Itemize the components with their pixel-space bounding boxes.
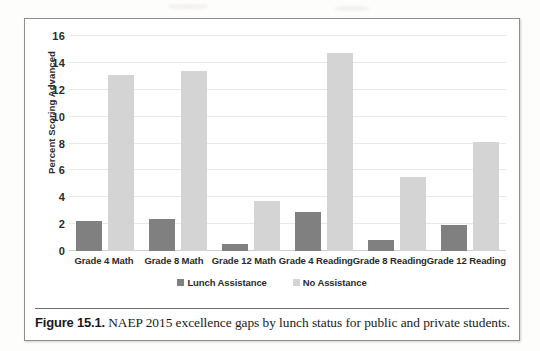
scan-artifact	[335, 6, 369, 11]
y-axis-tick-label: 2	[59, 219, 65, 230]
x-axis-tick-label: Grade 4 Reading	[279, 255, 353, 266]
bar-group	[360, 36, 433, 251]
bar-group	[287, 36, 360, 251]
figure-caption-label: Figure 15.1.	[35, 315, 105, 330]
x-axis-tick-label: Grade 4 Math	[69, 255, 139, 266]
bar	[368, 240, 394, 251]
bar-group	[433, 36, 506, 251]
bar	[295, 212, 321, 251]
bar-group	[142, 36, 215, 251]
y-axis-tick-label: 14	[52, 57, 65, 68]
y-axis-ticks: 0246810121416	[39, 36, 65, 251]
bar	[254, 201, 280, 251]
y-axis-tick-label: 16	[52, 31, 65, 42]
x-axis-tick-label: Grade 12 Math	[209, 255, 279, 266]
bar-group	[69, 36, 142, 251]
bar	[400, 177, 426, 251]
y-axis-tick-label: 0	[59, 246, 65, 257]
bar-groups	[69, 36, 506, 251]
bar	[181, 71, 207, 251]
caption-divider	[35, 308, 509, 309]
bar	[441, 225, 467, 251]
y-axis-tick-label: 6	[59, 165, 65, 176]
x-axis-tick-label: Grade 8 Reading	[353, 255, 427, 266]
figure-frame: Percent Scoring Advanced 0246810121416 G…	[24, 18, 520, 341]
legend-swatch-icon	[293, 279, 300, 286]
plot-area	[69, 36, 506, 251]
scan-artifact	[168, 4, 208, 9]
figure-caption-text: NAEP 2015 excellence gaps by lunch statu…	[105, 315, 510, 330]
x-axis-labels: Grade 4 MathGrade 8 MathGrade 12 MathGra…	[69, 255, 506, 266]
legend-label: Lunch Assistance	[187, 277, 266, 288]
y-axis-tick-label: 4	[59, 192, 65, 203]
legend-item[interactable]: No Assistance	[293, 277, 367, 288]
bar-group	[215, 36, 288, 251]
bar	[108, 75, 134, 251]
chart-legend: Lunch AssistanceNo Assistance	[25, 277, 519, 288]
figure-caption: Figure 15.1. NAEP 2015 excellence gaps b…	[35, 315, 513, 332]
legend-label: No Assistance	[303, 277, 367, 288]
bar	[76, 221, 102, 251]
x-axis-tick-label: Grade 12 Reading	[427, 255, 506, 266]
y-axis-tick-label: 10	[52, 111, 65, 122]
bar	[149, 219, 175, 251]
scanned-page: Percent Scoring Advanced 0246810121416 G…	[0, 0, 540, 351]
y-axis-tick-label: 12	[52, 84, 65, 95]
x-axis-tick-label: Grade 8 Math	[139, 255, 209, 266]
bar-chart: Percent Scoring Advanced 0246810121416 G…	[25, 19, 519, 307]
legend-swatch-icon	[177, 279, 184, 286]
bar	[473, 142, 499, 251]
legend-item[interactable]: Lunch Assistance	[177, 277, 266, 288]
y-axis-tick-label: 8	[59, 138, 65, 149]
bar	[327, 53, 353, 251]
bar	[222, 244, 248, 251]
